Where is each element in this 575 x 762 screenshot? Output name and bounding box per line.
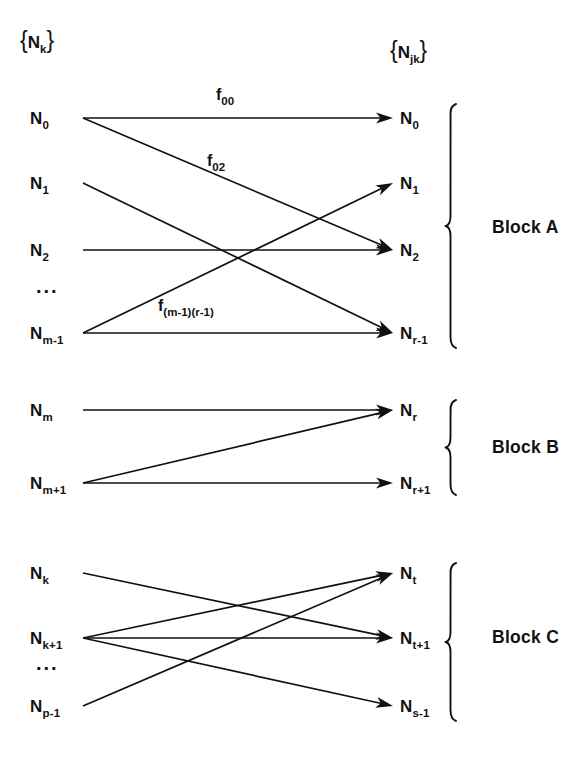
svg-text:{Njk}: {Njk} <box>390 37 428 65</box>
nodes-layer: N0N1N2Nm-1N0N1N2Nr-1...NmNm+1NrNr+1NkNk+… <box>30 109 431 719</box>
edge-label: f00 <box>216 86 234 107</box>
svg-text:f(m-1)(r-1): f(m-1)(r-1) <box>158 297 214 318</box>
block-title-block-b: Block B <box>492 437 559 457</box>
edge-arrow <box>83 478 393 489</box>
edges-layer <box>83 113 393 708</box>
node-left-m1: Nm-1 <box>30 324 64 346</box>
edge-arrow <box>83 328 393 339</box>
node-right-r: Nr <box>400 401 417 423</box>
svg-text:Nm+1: Nm+1 <box>30 474 67 496</box>
node-left-k1: Nk+1 <box>30 629 63 651</box>
block-brace <box>446 563 457 721</box>
edge-arrow <box>83 113 393 124</box>
svg-text:Nt: Nt <box>400 564 417 586</box>
ellipsis: ... <box>36 275 59 297</box>
svg-text:N1: N1 <box>30 174 49 196</box>
set-labels-layer: {Nk}{Njk} <box>20 27 428 65</box>
node-left-0: N0 <box>30 109 49 131</box>
edge-label: f02 <box>207 152 225 173</box>
node-right-t1: Nt+1 <box>400 629 430 651</box>
svg-text:Nt+1: Nt+1 <box>400 629 430 651</box>
block-title-block-c: Block C <box>492 627 559 647</box>
node-left-2: N2 <box>30 241 49 263</box>
diagram-canvas: {Nk}{Njk} N0N1N2Nm-1N0N1N2Nr-1...NmNm+1N… <box>0 0 575 762</box>
edge-arrow <box>83 405 393 416</box>
node-left-k: Nk <box>30 564 49 586</box>
node-left-m1: Nm+1 <box>30 474 67 496</box>
ellipsis: ... <box>36 652 59 674</box>
svg-text:...: ... <box>36 275 59 297</box>
node-left-m: Nm <box>30 401 53 423</box>
edge-arrow <box>83 118 393 250</box>
svg-text:N1: N1 <box>400 174 419 196</box>
svg-text:Nm: Nm <box>30 401 53 423</box>
node-right-s1: Ns-1 <box>400 697 430 719</box>
node-right-0: N0 <box>400 109 419 131</box>
svg-text:Nk+1: Nk+1 <box>30 629 63 651</box>
svg-text:Np-1: Np-1 <box>30 697 61 719</box>
edge-arrow <box>83 245 393 256</box>
edge-arrow <box>83 573 393 706</box>
svg-text:Block B: Block B <box>492 437 559 457</box>
block-brace <box>446 104 457 348</box>
svg-text:Nr+1: Nr+1 <box>400 474 431 496</box>
node-right-t: Nt <box>400 564 417 586</box>
svg-text:Nr-1: Nr-1 <box>400 324 428 346</box>
svg-text:f00: f00 <box>216 86 234 107</box>
svg-text:Block A: Block A <box>492 217 559 237</box>
block-title-block-a: Block A <box>492 217 559 237</box>
block-brace <box>446 400 457 495</box>
node-left-p1: Np-1 <box>30 697 61 719</box>
svg-text:Ns-1: Ns-1 <box>400 697 430 719</box>
edge-labels-layer: f00f02f(m-1)(r-1) <box>158 86 234 318</box>
node-right-2: N2 <box>400 241 419 263</box>
svg-text:N2: N2 <box>400 241 419 263</box>
set-label-left: {Nk} <box>20 27 54 55</box>
edge-arrow <box>83 638 393 708</box>
set-label-right: {Njk} <box>390 37 428 65</box>
node-right-r1: Nr+1 <box>400 474 431 496</box>
block-mapping-diagram: {Nk}{Njk} N0N1N2Nm-1N0N1N2Nr-1...NmNm+1N… <box>0 0 575 762</box>
braces-layer: Block ABlock BBlock C <box>446 104 560 721</box>
svg-text:f02: f02 <box>207 152 225 173</box>
svg-text:Nr: Nr <box>400 401 417 423</box>
node-left-1: N1 <box>30 174 49 196</box>
svg-text:...: ... <box>36 652 59 674</box>
svg-text:Nk: Nk <box>30 564 49 586</box>
svg-text:N0: N0 <box>400 109 419 131</box>
edge-label: f(m-1)(r-1) <box>158 297 214 318</box>
node-right-1: N1 <box>400 174 419 196</box>
svg-text:N0: N0 <box>30 109 49 131</box>
svg-text:Block C: Block C <box>492 627 559 647</box>
svg-text:N2: N2 <box>30 241 49 263</box>
node-right-r1: Nr-1 <box>400 324 428 346</box>
svg-text:{Nk}: {Nk} <box>20 27 54 55</box>
edge-arrow <box>83 409 393 483</box>
edge-arrow <box>83 633 393 644</box>
svg-text:Nm-1: Nm-1 <box>30 324 64 346</box>
